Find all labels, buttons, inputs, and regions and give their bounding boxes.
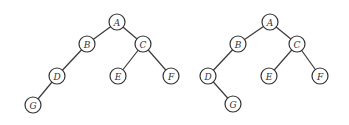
node-label: A — [113, 18, 121, 28]
node-a: A — [109, 14, 125, 30]
node-label: E — [265, 72, 273, 82]
tree-diagram-canvas: ABCDEFGABCDEFG — [0, 0, 349, 125]
node-label: G — [229, 100, 236, 110]
right-tree: ABCDEFG — [200, 14, 328, 112]
node-c: C — [289, 36, 305, 52]
node-d: D — [49, 68, 65, 84]
node-g: G — [25, 97, 41, 113]
node-label: D — [52, 72, 60, 82]
node-label: A — [266, 18, 274, 28]
node-label: E — [114, 72, 122, 82]
node-label: D — [203, 72, 211, 82]
node-label: C — [140, 40, 147, 50]
node-f: F — [312, 68, 328, 84]
node-f: F — [163, 68, 179, 84]
node-label: B — [83, 40, 91, 50]
node-label: B — [234, 40, 242, 50]
node-label: F — [167, 72, 175, 82]
node-g: G — [225, 96, 241, 112]
left-tree: ABCDEFG — [25, 14, 179, 113]
node-label: C — [294, 40, 301, 50]
node-b: B — [230, 36, 246, 52]
node-d: D — [200, 68, 216, 84]
node-b: B — [79, 36, 95, 52]
node-e: E — [110, 68, 126, 84]
node-label: G — [29, 101, 36, 111]
node-c: C — [135, 36, 151, 52]
node-e: E — [261, 68, 277, 84]
node-label: F — [316, 72, 324, 82]
node-a: A — [262, 14, 278, 30]
